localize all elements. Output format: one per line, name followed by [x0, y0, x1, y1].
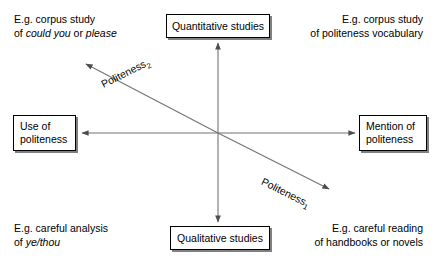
pole-box-quantitative-studies-label: Quantitative studies	[172, 20, 264, 33]
caption-bottom-left-line2: of ye/thou	[14, 236, 108, 250]
caption-bottom-left-line1: E.g. careful analysis	[14, 222, 108, 236]
pole-box-use-of-politeness-line1: Use of	[20, 120, 50, 132]
pole-box-use-of-politeness-label: Use ofpoliteness	[20, 120, 67, 146]
pole-box-mention-of-politeness-line1: Mention of	[366, 120, 415, 132]
pole-box-quantitative-studies: Quantitative studies	[166, 14, 270, 38]
caption-top-right-line1: E.g. corpus study	[310, 13, 423, 27]
pole-box-use-of-politeness: Use ofpoliteness	[13, 115, 76, 151]
pole-box-qualitative-studies-label: Qualitative studies	[177, 232, 263, 245]
caption-bottom-right-line1: E.g. careful reading	[314, 222, 423, 236]
caption-top-left-line2-prefix: of	[14, 27, 26, 39]
caption-bottom-right-line2: of handbooks or novels	[314, 236, 423, 250]
politeness-quadrant-diagram: E.g. corpus study of could you or please…	[0, 0, 436, 263]
caption-top-left-line2: of could you or please	[14, 27, 117, 41]
caption-bottom-left-line2-prefix: of	[14, 236, 26, 248]
caption-top-left-line1: E.g. corpus study	[14, 13, 117, 27]
caption-top-right: E.g. corpus study of politeness vocabula…	[310, 13, 423, 40]
pole-box-mention-of-politeness-label: Mention ofpoliteness	[366, 120, 415, 146]
pole-box-mention-of-politeness-line2: politeness	[366, 133, 413, 145]
pole-box-use-of-politeness-line2: politeness	[20, 133, 67, 145]
caption-bottom-right: E.g. careful reading of handbooks or nov…	[314, 222, 423, 249]
caption-top-left-line2-italic1: could you	[26, 27, 71, 39]
caption-bottom-left-line2-italic1: ye/thou	[26, 236, 60, 248]
caption-top-left-line2-middle: or	[71, 27, 86, 39]
pole-box-qualitative-studies: Qualitative studies	[170, 226, 270, 250]
caption-top-left: E.g. corpus study of could you or please	[14, 13, 117, 40]
caption-top-right-line2: of politeness vocabulary	[310, 27, 423, 41]
caption-top-left-line2-italic2: please	[86, 27, 117, 39]
caption-bottom-left: E.g. careful analysis of ye/thou	[14, 222, 108, 249]
pole-box-mention-of-politeness: Mention ofpoliteness	[359, 115, 427, 151]
